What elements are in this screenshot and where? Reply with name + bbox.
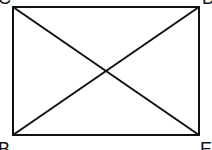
vertex-label-bottom-right: E	[200, 139, 212, 150]
vertex-label-top-left: C	[0, 0, 11, 8]
vertex-label-top-right: D	[202, 0, 212, 8]
rectangle-diagram: C D B E	[0, 0, 212, 150]
vertex-label-bottom-left: B	[0, 139, 10, 150]
